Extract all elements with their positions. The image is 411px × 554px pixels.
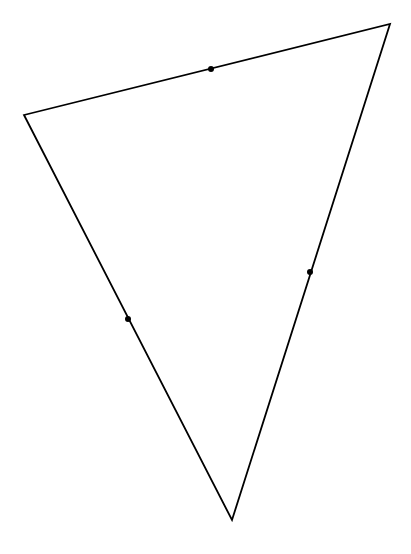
point-on-side-ab <box>208 66 214 72</box>
triangle-diagram <box>0 0 411 554</box>
point-on-side-bc <box>307 269 313 275</box>
point-on-side-ca <box>125 316 131 322</box>
diagram-background <box>0 0 411 554</box>
